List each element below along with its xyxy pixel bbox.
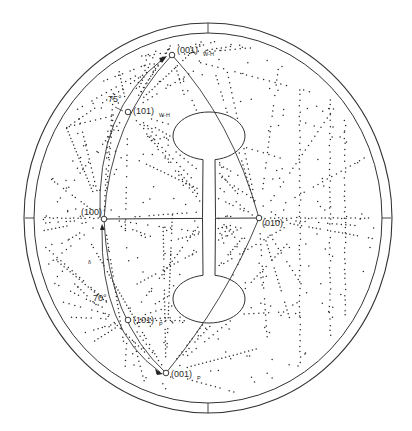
pole-subscript-p001_wh: W-H (203, 51, 214, 57)
pole-marker-p101_p (125, 317, 131, 323)
pole-subscript-p101_wh: W-H (159, 112, 170, 118)
pole-marker-p001_wh (169, 52, 175, 58)
pole-label-p001_p: (001) (171, 369, 192, 379)
pole-subscript-p101_p: P (159, 321, 163, 327)
stereographic-projection-figure: (001)W-H(101)W-H(100)(010)(101)P(001)P75… (0, 0, 412, 431)
pole-label-p101_p: (101) (133, 315, 154, 325)
pole-label-p010: (010) (262, 218, 283, 228)
pole-marker-p010 (256, 215, 262, 221)
pole-marker-p001_p (163, 370, 169, 376)
dumbbell-region-outline (173, 112, 245, 323)
arc-100-101p-001p (104, 219, 166, 373)
equator-line (104, 218, 259, 219)
pole-marker-p100 (101, 216, 107, 222)
rotation-arc-70 (102, 228, 160, 372)
pole-label-p001_wh: (001) (177, 45, 198, 55)
pole-marker-p101_wh (125, 109, 131, 115)
rotation-angle-label-angle_70: 70° (93, 293, 107, 303)
arrowhead-down-icon (155, 369, 163, 375)
pole-subscript-p001_p: P (197, 375, 201, 381)
pole-label-p100: (100) (81, 207, 102, 217)
rotation-arc-75 (100, 58, 164, 218)
minor-mark: δ (88, 259, 91, 265)
arc-100-101wh-001wh (104, 55, 172, 219)
pole-label-p101_wh: (101) (133, 106, 154, 116)
rotation-angle-label-angle_75: 75° (108, 94, 122, 104)
